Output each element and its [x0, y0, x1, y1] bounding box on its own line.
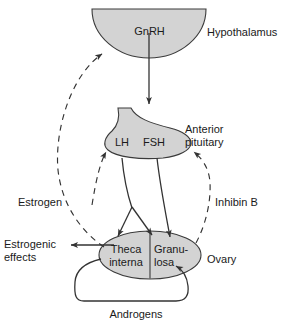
lh-arrow-trunk	[122, 158, 132, 208]
estrogen-feedback-arrow	[58, 54, 104, 247]
granulosa-label-line2: losa	[154, 256, 174, 269]
estrogen-label: Estrogen	[18, 196, 62, 209]
estrogenic-effects-label-line2: effects	[4, 251, 36, 264]
anterior-pituitary-label-line1: Anterior	[185, 123, 224, 136]
estrogenic-effects-label-line1: Estrogenic	[4, 238, 56, 251]
theca-interna-label-line2: interna	[104, 256, 148, 269]
ovary-label: Ovary	[207, 253, 236, 266]
granulosa-label-line1: Granu-	[154, 243, 188, 256]
anterior-pituitary-shape	[105, 108, 191, 159]
endocrine-axis-diagram: GnRH Hypothalamus LH FSH Anterior pituit…	[0, 0, 285, 328]
hypothalamus-label: Hypothalamus	[207, 26, 277, 39]
lh-arrow-to-theca	[118, 207, 132, 236]
gnrh-label: GnRH	[127, 25, 172, 38]
inhibin-b-feedback-arrow	[194, 152, 210, 243]
fsh-label: FSH	[138, 136, 170, 149]
androgens-label: Androgens	[100, 308, 172, 321]
diagram-canvas	[0, 0, 285, 328]
lh-label: LH	[110, 136, 134, 149]
anterior-pituitary-label-line2: pituitary	[185, 136, 224, 149]
theca-interna-label-line1: Theca	[104, 243, 148, 256]
fsh-arrow	[157, 158, 170, 237]
estrogen-to-pituitary-arrow	[92, 152, 106, 205]
inhibin-b-label: Inhibin B	[215, 196, 258, 209]
